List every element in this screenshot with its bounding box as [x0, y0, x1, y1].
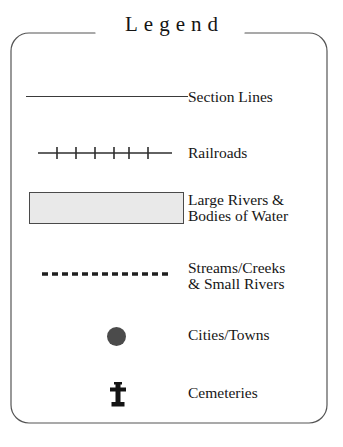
legend-title: Legend	[0, 12, 343, 36]
symbol-cell	[12, 125, 188, 181]
dashed-line-icon	[42, 272, 172, 276]
legend-label-large-rivers: Large Rivers & Bodies of Water	[188, 192, 328, 224]
symbol-cell	[12, 365, 188, 421]
legend-row-large-rivers: Large Rivers & Bodies of Water	[12, 180, 328, 236]
water-polygon-icon	[29, 192, 184, 224]
filled-circle-icon	[107, 327, 126, 346]
legend-label-streams: Streams/Creeks & Small Rivers	[188, 260, 328, 292]
legend-label-railroads: Railroads	[188, 145, 328, 161]
symbol-cell	[12, 248, 188, 304]
legend-label-cities: Cities/Towns	[188, 327, 328, 343]
legend-row-section-lines: Section Lines	[12, 69, 328, 125]
legend-row-railroads: Railroads	[12, 125, 328, 181]
railroad-line-icon	[38, 145, 172, 161]
symbol-cell	[12, 307, 188, 363]
map-legend-panel: Legend Section Lines Railroads Large Riv	[0, 0, 343, 447]
legend-label-cemeteries: Cemeteries	[188, 385, 328, 401]
legend-row-cemeteries: Cemeteries	[12, 365, 328, 421]
legend-row-streams: Streams/Creeks & Small Rivers	[12, 248, 328, 304]
symbol-cell	[12, 69, 188, 125]
cross-icon	[108, 381, 128, 407]
legend-label-section-lines: Section Lines	[188, 89, 328, 105]
legend-row-cities: Cities/Towns	[12, 307, 328, 363]
symbol-cell	[12, 180, 188, 236]
solid-line-icon	[26, 96, 188, 97]
